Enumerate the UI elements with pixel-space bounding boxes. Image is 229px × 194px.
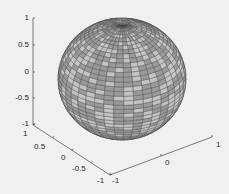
surface-face [123,68,131,73]
surface-face [119,38,123,42]
surface-face [124,87,134,92]
z-tick-label: -0.5 [15,94,29,102]
x-tick-label: 0 [165,159,169,167]
surface-face [123,38,127,42]
surface-face [109,58,117,63]
surface-face [114,96,124,101]
figure: 1 0.5 0 -0.5 -1 1 0.5 0 -0.5 -1 -1 0 1 [0,0,229,194]
surface-face [123,77,132,82]
surface-face [124,82,133,87]
x-tick-label: 1 [216,141,220,149]
surface-face [124,109,134,114]
tick-mark [52,137,54,138]
surface-face [114,124,124,127]
tick-mark [91,162,93,163]
x-tick-label: -1 [112,177,119,185]
y-tick-label: 0.5 [34,143,45,151]
surface-face [111,49,117,54]
surface-face [124,117,134,121]
surface-face [132,76,141,82]
surface-face [114,87,124,92]
surface-face [123,72,131,77]
surface-face [113,45,119,50]
surface-face [115,77,124,82]
y-tick-label: -0.5 [72,165,86,173]
surface-face [114,117,124,121]
z-tick-label: 0 [25,68,29,76]
surface-face [123,42,128,46]
surface-face [124,105,134,110]
surface-face [124,100,134,105]
surface-face [114,101,124,106]
surface-face [117,50,123,54]
surface-face [119,35,122,39]
surface-face [114,105,124,110]
surface-face [114,82,123,87]
surface-face [114,109,124,113]
sphere-surface [58,18,186,140]
z-tick-label: 0.5 [18,41,29,49]
surface-face [123,50,129,55]
surface-face [116,63,124,68]
surface-face [115,68,123,73]
tick-mark [72,149,74,150]
z-tick-label: -1 [22,120,29,128]
surface-face [123,58,130,63]
y-tick-label: 0 [61,154,65,162]
surface-face [124,96,134,101]
surface-face [117,54,124,59]
surface-face [106,76,115,82]
y-tick-label: 1 [23,130,27,138]
surface-face [115,130,124,133]
surface-face [115,72,124,77]
surface-face [118,46,123,50]
surface-face [114,121,124,125]
surface-face [116,59,123,64]
surface-face [124,91,134,96]
surface-face [123,46,128,50]
surface-face [123,63,131,68]
surface-face [123,54,130,59]
y-tick-label: -1 [97,177,104,185]
surface-face [118,42,123,46]
surface-face [114,91,124,96]
surface-face [114,113,124,117]
surface-face [124,113,134,117]
sphere-surface-plot [0,0,229,194]
surface-face [114,127,123,130]
z-tick-label: 1 [25,14,29,22]
